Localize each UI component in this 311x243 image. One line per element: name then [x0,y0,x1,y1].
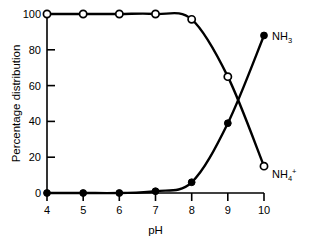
data-point-marker [152,10,159,17]
x-tick-label-5: 5 [80,204,86,216]
x-tick-label-9: 9 [225,204,231,216]
data-point-marker [80,190,87,197]
data-point-marker [261,32,268,39]
y-tick-label-80: 80 [29,44,41,56]
x-tick-label-10: 10 [258,204,270,216]
data-point-marker [152,188,159,195]
x-axis-title: pH [148,224,163,236]
y-tick-label-60: 60 [29,80,41,92]
y-tick-label-0: 0 [35,187,41,199]
x-tick-label-8: 8 [189,204,195,216]
data-point-marker [44,190,51,197]
data-point-marker [116,190,123,197]
data-point-marker [188,16,195,23]
y-tick-label-20: 20 [29,151,41,163]
y-axis-title: Percentage distribution [10,45,22,163]
y-tick-label-40: 40 [29,115,41,127]
chart-container: 0 20 40 60 80 100 4 5 6 7 8 9 10 pH Perc… [0,0,311,243]
x-tick-label-6: 6 [116,204,122,216]
data-point-marker [116,10,123,17]
data-point-marker [224,120,231,127]
x-tick-label-4: 4 [44,204,50,216]
data-point-marker [188,179,195,186]
data-point-marker [80,10,87,17]
percentage-distribution-vs-ph-chart: 0 20 40 60 80 100 4 5 6 7 8 9 10 pH Perc… [0,0,311,243]
data-point-marker [43,10,50,17]
data-point-marker [260,163,267,170]
x-tick-label-7: 7 [152,204,158,216]
data-point-marker [224,73,231,80]
y-tick-label-100: 100 [23,8,41,20]
